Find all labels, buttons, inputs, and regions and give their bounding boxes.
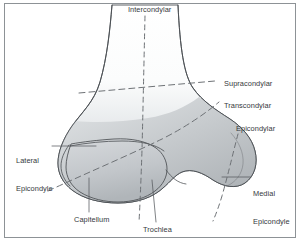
label-medial-epicondyle: Medial Epicondyle	[253, 171, 290, 245]
label-lateral-epicondyle-line1: Lateral	[16, 156, 53, 165]
label-epicondylar: Epicondylar	[236, 124, 275, 133]
label-capitellum: Capitellum	[74, 215, 109, 224]
anatomical-figure: Intercondylar Supracondylar Transcondyla…	[0, 0, 303, 245]
label-medial-epicondyle-line1: Medial	[253, 189, 290, 198]
capitellum-shape	[66, 139, 167, 202]
label-supracondylar: Supracondylar	[224, 79, 272, 88]
label-medial-epicondyle-line2: Epicondyle	[253, 217, 290, 226]
label-lateral-epicondyle: Lateral Epicondyle	[16, 138, 53, 212]
label-trochlea: Trochlea	[143, 225, 172, 234]
label-intercondylar: Intercondylar	[128, 5, 171, 14]
label-lateral-epicondyle-line2: Epicondyle	[16, 184, 53, 193]
label-transcondylar: Transcondylar	[224, 101, 271, 110]
